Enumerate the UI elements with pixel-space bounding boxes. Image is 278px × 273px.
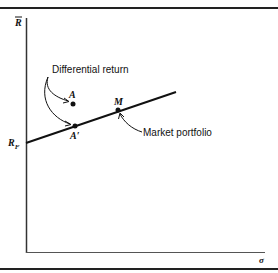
intercept-label: RF	[8, 137, 19, 151]
arrow-to-a	[47, 77, 68, 101]
y-axis-label: R	[15, 17, 22, 28]
x-axis-label: σ	[259, 255, 264, 265]
intercept-label-sub: F	[15, 143, 20, 151]
intercept-label-main: R	[8, 137, 15, 148]
point-a-label: A	[69, 89, 76, 100]
point-m	[116, 108, 121, 113]
point-a-prime-label: A′	[70, 130, 79, 141]
capital-market-line-diagram	[0, 0, 278, 273]
market-portfolio-label: Market portfolio	[143, 127, 212, 138]
differential-return-label: Differential return	[52, 64, 129, 75]
point-m-label: M	[114, 96, 123, 107]
point-a-prime	[73, 124, 78, 129]
point-a	[71, 102, 76, 107]
